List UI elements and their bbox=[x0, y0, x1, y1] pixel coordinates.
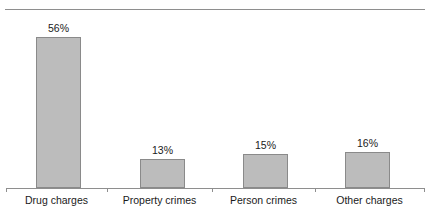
x-axis-line bbox=[6, 188, 424, 189]
x-axis-tick bbox=[315, 188, 316, 192]
x-axis-tick bbox=[107, 188, 108, 192]
x-axis-tick bbox=[424, 188, 425, 192]
bar-drug-charges[interactable] bbox=[36, 37, 81, 188]
plot-area: 56% Drug charges 13% Property crimes 15%… bbox=[0, 0, 430, 212]
bar-person-crimes[interactable] bbox=[243, 154, 288, 188]
bar-other-charges[interactable] bbox=[345, 152, 390, 188]
category-label-property-crimes: Property crimes bbox=[107, 193, 212, 207]
x-axis-tick bbox=[6, 188, 7, 192]
bar-chart: 56% Drug charges 13% Property crimes 15%… bbox=[0, 0, 430, 212]
bar-property-crimes[interactable] bbox=[140, 159, 185, 188]
bar-value-label: 56% bbox=[36, 22, 81, 34]
category-label-other-charges: Other charges bbox=[315, 193, 424, 207]
bar-value-label: 15% bbox=[243, 139, 288, 151]
category-label-person-crimes: Person crimes bbox=[212, 193, 315, 207]
x-axis-tick bbox=[212, 188, 213, 192]
category-label-drug-charges: Drug charges bbox=[6, 193, 107, 207]
bar-value-label: 16% bbox=[345, 137, 390, 149]
bar-value-label: 13% bbox=[140, 144, 185, 156]
